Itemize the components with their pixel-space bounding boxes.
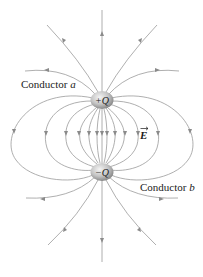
field-vector-label: E [139, 127, 148, 141]
charge-label-negative: −Q [95, 167, 110, 178]
conductor-a-label: Conductor a [21, 78, 76, 90]
field-vector-symbol: E [139, 129, 147, 141]
charge-label-positive: +Q [95, 95, 110, 106]
electric-field-diagram: +Q −Q Conductor a Conductor b E [0, 0, 203, 277]
conductor-b-label: Conductor b [140, 181, 195, 193]
conductor-b: −Q [91, 163, 114, 181]
conductor-a: +Q [91, 91, 114, 109]
